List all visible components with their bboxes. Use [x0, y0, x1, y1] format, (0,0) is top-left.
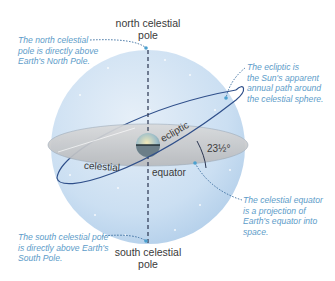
note-line: South Pole. — [18, 253, 108, 264]
north-pole-line-1: north celestial — [100, 17, 196, 29]
equator-label: equator — [152, 167, 186, 178]
south-celestial-pole-label: south celestial pole — [100, 246, 196, 270]
note-line: Earth's equator into — [243, 216, 323, 227]
note-line: space. — [243, 227, 323, 238]
note-line: is directly above Earth's — [18, 243, 108, 254]
note-line: The ecliptic is — [247, 62, 323, 73]
note-line: The south celestial pole — [18, 232, 108, 243]
tilt-angle-label: 23½° — [207, 143, 230, 154]
note-line: the celestial sphere. — [247, 94, 323, 105]
north-celestial-pole-label: north celestial pole — [100, 17, 196, 41]
note-line: is a projection of — [243, 206, 323, 217]
note-line: annual path around — [247, 83, 323, 94]
note-line: Earth's North Pole. — [18, 56, 98, 67]
north-pole-note: The north celestial pole is directly abo… — [18, 35, 98, 67]
note-line: pole is directly above — [18, 46, 98, 57]
south-pole-line-1: south celestial — [100, 246, 196, 258]
ecliptic-note: The ecliptic is the Sun's apparent annua… — [247, 62, 323, 104]
equator-note: The celestial equator is a projection of… — [243, 195, 323, 237]
south-pole-line-2: pole — [100, 258, 196, 270]
celestial-sphere-diagram: north celestial pole south celestial pol… — [0, 0, 335, 281]
north-pole-line-2: pole — [100, 29, 196, 41]
south-pole-note: The south celestial pole is directly abo… — [18, 232, 108, 264]
note-line: The celestial equator — [243, 195, 323, 206]
note-line: the Sun's apparent — [247, 73, 323, 84]
note-line: The north celestial — [18, 35, 98, 46]
